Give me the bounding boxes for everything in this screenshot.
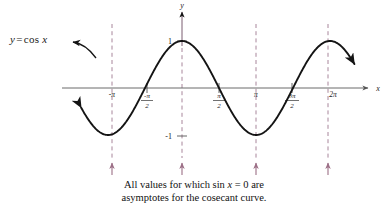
x-tick-label-half-pi-denominator: 2: [217, 102, 221, 110]
caption-line-1-part-b: = 0 are: [232, 179, 264, 190]
function-label-pointer-arrow: [73, 42, 96, 58]
figure-caption: All values for which sin x = 0 are asymp…: [0, 178, 388, 204]
x-tick-label-three-half-pi-denominator: 2: [290, 102, 294, 110]
caption-line-1-part-a: All values for which sin: [124, 179, 228, 190]
x-tick-label-neg-pi: -π: [109, 90, 115, 99]
y-axis-label: y: [179, 1, 184, 10]
y-tick-label-neg1: -1: [165, 132, 172, 141]
x-tick-label-neg-half-pi: -π 2: [141, 92, 153, 110]
x-tick-label-pi: π: [254, 90, 258, 99]
x-tick-label-neg-half-pi-numerator: -π: [144, 92, 150, 100]
x-tick-label-neg-half-pi-denominator: 2: [145, 102, 149, 110]
caption-line-1: All values for which sin x = 0 are: [0, 178, 388, 191]
caption-line-2: asymptotes for the cosecant curve.: [0, 191, 388, 204]
x-axis-label: x: [375, 84, 380, 93]
x-tick-label-two-pi: 2π: [329, 90, 337, 99]
asymptote-arrows: [112, 163, 328, 175]
